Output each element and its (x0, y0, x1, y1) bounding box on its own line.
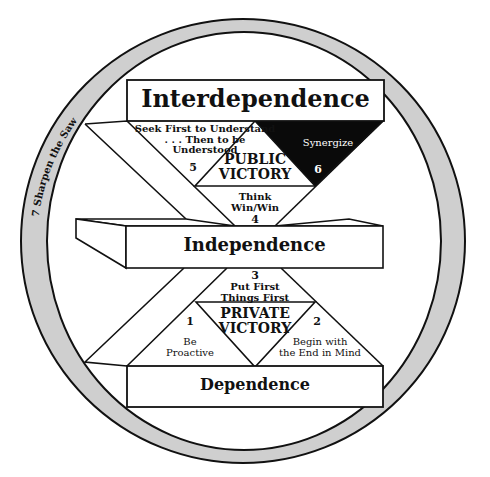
habit-6-text: Synergize (288, 138, 368, 149)
habit-6-number: 6 (308, 164, 328, 176)
level-dependence: Dependence (127, 377, 383, 394)
habit-4-text: Think Win/Win (215, 192, 295, 213)
private-victory-label: PRIVATE VICTORY (215, 306, 295, 335)
habit-3-text: Put First Things First (215, 282, 295, 303)
habit-3-number: 3 (245, 270, 265, 282)
habit-1-number: 1 (180, 316, 200, 328)
habit-4-number: 4 (245, 214, 265, 226)
habit-1-text: Be Proactive (160, 337, 220, 358)
habit-2-text: Begin with the End in Mind (270, 337, 370, 358)
habit-5-number: 5 (183, 162, 203, 174)
level-independence: Independence (126, 236, 383, 255)
level-interdependence: Interdependence (127, 86, 384, 111)
public-victory-label: PUBLIC VICTORY (215, 152, 295, 181)
habit-2-number: 2 (307, 316, 327, 328)
